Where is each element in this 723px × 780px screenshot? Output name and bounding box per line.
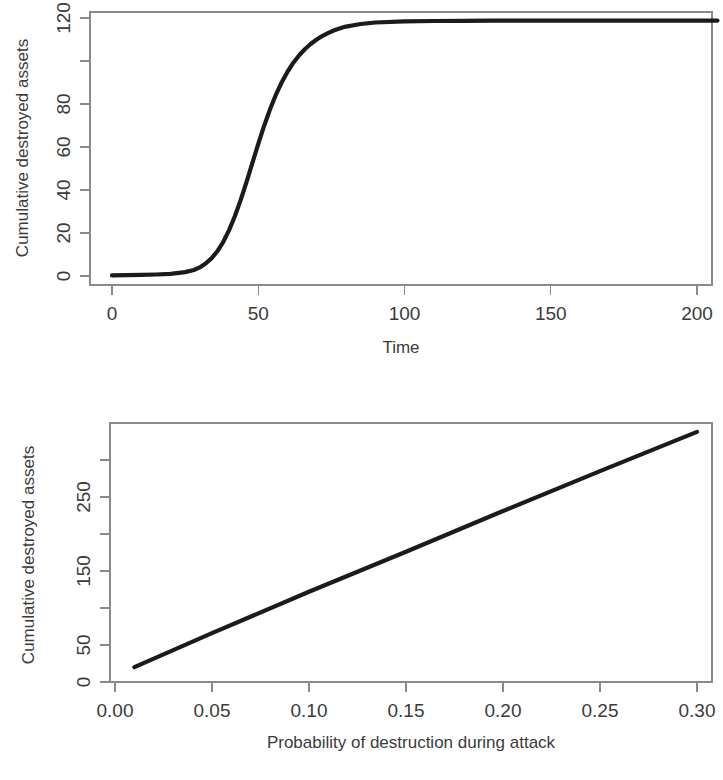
y-tick-label: 150 [73, 555, 94, 587]
x-tick-label: 150 [535, 303, 567, 324]
data-series-line [134, 432, 697, 667]
x-tick-label: 0.30 [679, 700, 716, 721]
x-tick-label: 0.05 [194, 700, 231, 721]
x-axis: 0.000.050.100.150.200.250.30 [97, 682, 716, 721]
x-tick-label: 0.20 [485, 700, 522, 721]
y-tick-label: 0 [73, 677, 94, 688]
y-axis-title: Cumulative destroyed assets [13, 39, 32, 257]
x-tick-label: 0 [107, 303, 118, 324]
x-axis: 050100150200 [107, 285, 713, 324]
x-tick-label: 50 [248, 303, 269, 324]
x-axis-title: Probability of destruction during attack [267, 733, 556, 752]
y-tick-label: 80 [53, 93, 74, 114]
x-tick-label: 0.25 [582, 700, 619, 721]
data-series-line [112, 21, 717, 276]
x-tick-label: 0.00 [97, 700, 134, 721]
x-tick-label: 200 [681, 303, 713, 324]
x-axis-title: Time [382, 338, 419, 357]
y-tick-label: 40 [53, 179, 74, 200]
line-chart-cumulative-assets-vs-probability: 0.000.050.100.150.200.250.30050150250Pro… [0, 390, 723, 780]
chart-panel-top: 050100150200020406080120TimeCumulative d… [0, 0, 723, 390]
y-tick-label: 250 [73, 481, 94, 513]
line-chart-cumulative-assets-over-time: 050100150200020406080120TimeCumulative d… [0, 0, 723, 390]
y-tick-label: 60 [53, 136, 74, 157]
y-axis: 020406080120 [53, 2, 90, 281]
figure-page: 050100150200020406080120TimeCumulative d… [0, 0, 723, 780]
chart-panel-bottom: 0.000.050.100.150.200.250.30050150250Pro… [0, 390, 723, 780]
x-tick-label: 0.15 [388, 700, 425, 721]
y-tick-label: 0 [53, 271, 74, 282]
y-axis-title: Cumulative destroyed assets [19, 446, 38, 664]
y-tick-label: 20 [53, 222, 74, 243]
x-tick-label: 0.10 [291, 700, 328, 721]
plot-box-border [90, 12, 712, 285]
x-tick-label: 100 [389, 303, 421, 324]
y-tick-label: 120 [53, 2, 74, 34]
y-axis: 050150250 [73, 460, 110, 687]
y-tick-label: 50 [73, 634, 94, 655]
